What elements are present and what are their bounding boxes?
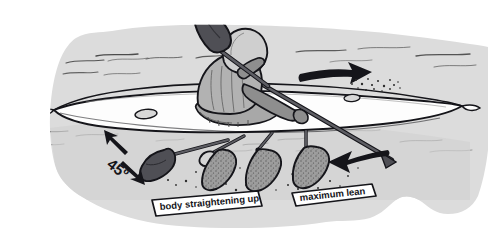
hand [293, 109, 308, 123]
deck-hatch-aft [344, 94, 360, 102]
kayak-technique-illustration: 45º body straightening up maximum lean [0, 0, 491, 244]
